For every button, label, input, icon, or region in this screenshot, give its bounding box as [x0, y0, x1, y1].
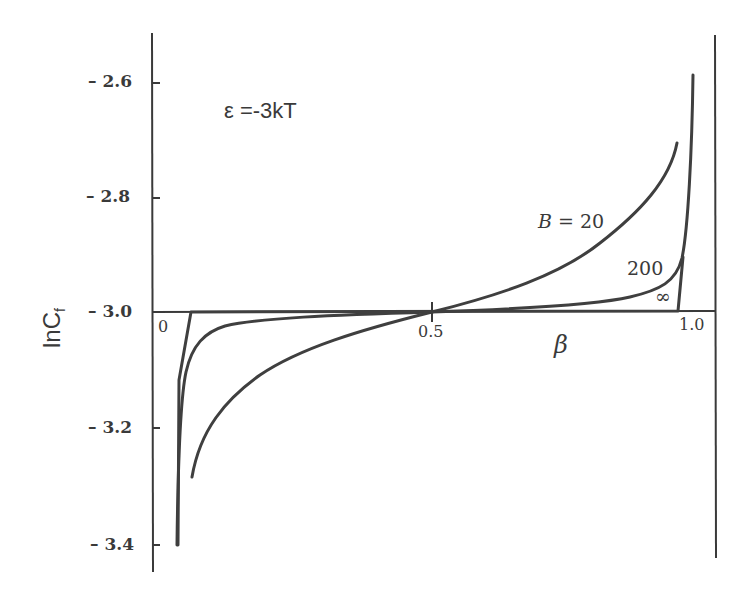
y-tick-label: – 2.8: [86, 186, 130, 206]
label-b-200: 200: [627, 257, 663, 279]
label-b-20: B = 20: [537, 210, 604, 232]
y-axis-label: lnCf: [38, 308, 68, 348]
svg-text:lnCf: lnCf: [38, 308, 68, 348]
y-tick-label: – 3.4: [90, 534, 134, 554]
epsilon-annotation: ε =-3kT: [224, 98, 297, 123]
right-axis: [715, 35, 716, 558]
left-axis: [152, 33, 153, 572]
x-tick-label: 0: [158, 317, 168, 336]
x-tick-label: 0.5: [418, 322, 443, 341]
y-axis-label-main: lnC: [38, 312, 65, 348]
label-b-infinity: ∞: [655, 285, 671, 307]
x-tick-label: 1.0: [679, 315, 704, 334]
y-axis-label-sub: f: [52, 308, 68, 312]
x-axis-label: β: [553, 331, 568, 359]
y-tick-label: – 3.2: [88, 417, 132, 437]
y-tick-label: – 2.6: [88, 71, 132, 91]
chart: – 2.6 – 2.8 – 3.0 – 3.2 – 3.4 0 0.5 1.0 …: [0, 0, 751, 598]
y-tick-label: – 3.0: [88, 301, 132, 321]
